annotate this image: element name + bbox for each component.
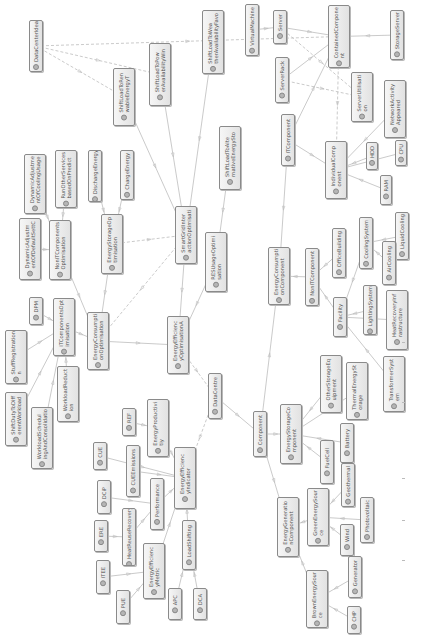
class-icon (92, 196, 98, 202)
class-icon (324, 470, 330, 476)
class-node-virtual-machine[interactable]: VirtualMachine (245, 4, 259, 56)
class-node-non-itcomponents-optimisation[interactable]: NonITComponents Optimisation (49, 220, 71, 280)
class-node-energy-efficiency-metric[interactable]: EnergyEfficienc yMetric (143, 543, 165, 599)
class-node-content: ITEE (100, 567, 106, 586)
class-node-shift-load-to-weather-favor[interactable]: ShiftLoadToWea therAvailabilityFavo (202, 10, 224, 74)
class-node-energy-generation-component[interactable]: EnergyGeneratio nComponent (277, 497, 299, 557)
class-node-itcomponent[interactable]: ITComponent (281, 114, 295, 166)
class-node-content: RESUsageOptimi sation (210, 236, 222, 288)
class-node-workload-reduction[interactable]: WorkloadReduct ion (57, 366, 79, 422)
class-node-energy-consumption-optimisation[interactable]: EnergyConsumpti onOptimisation (87, 312, 109, 370)
class-label: ITComponentsOpt imisation (58, 300, 70, 347)
class-icon (101, 501, 107, 507)
class-node-heat-recovery-infrastructure[interactable]: HeatRecoveryInf rastructure (386, 290, 408, 350)
class-node-dynamic-adjustment-of-cooling[interactable]: DynamicAdjustme ntOfCoolingUsage (24, 154, 46, 214)
class-node-pue[interactable]: PUE (116, 590, 130, 624)
class-node-charge-energy[interactable]: ChargeEnergy (120, 150, 134, 200)
class-node-resusage-optimisation[interactable]: RESUsageOptimi sation (205, 232, 227, 292)
class-label: DataCenterIdea (33, 21, 39, 62)
class-node-generator[interactable]: Generator (348, 556, 362, 598)
class-node-wind[interactable]: Wind (340, 524, 354, 556)
class-node-dynamic-adjustment-default-settings[interactable]: DynamicAdjustm entOfDefaultSettC (19, 218, 41, 280)
class-node-apc[interactable]: APC (168, 588, 182, 620)
class-node-contained-component[interactable]: ContainedCompone nt (328, 5, 350, 68)
class-node-content: Performance (154, 484, 160, 525)
class-node-network-activity[interactable]: NetworkActivity Appeared (384, 80, 406, 138)
class-node-smart-grid-interaction-optimisation[interactable]: SmartGridInter actionOptimisati (175, 206, 197, 264)
class-node-server-rack[interactable]: ServerRack (275, 57, 289, 103)
class-node-thermal-energy-storage[interactable]: ThermalEnergySt orage (346, 362, 368, 420)
class-node-workload-scheduling-consolidation[interactable]: WorkloadSchedul ingAndConsolidatio (31, 407, 53, 469)
class-node-server-utilisation[interactable]: ServerUtilisati on (351, 72, 373, 122)
class-label: PUE (120, 598, 126, 608)
class-node-data-centre[interactable]: DataCentre (208, 373, 222, 419)
class-icon (344, 451, 350, 457)
class-node-hdd[interactable]: HDD (366, 142, 378, 170)
class-node-transformer-system[interactable]: TransformerSyst em (383, 356, 405, 412)
class-node-individual-component[interactable]: IndividualComp onent (325, 141, 347, 199)
class-node-facility[interactable]: Facility (333, 297, 347, 337)
class-node-shift-load-future-avail-renewable[interactable]: ShiftLoadToRen wableEnergyT (113, 68, 135, 126)
class-icon (210, 65, 216, 71)
class-node-lighting-system[interactable]: LightingSystem (363, 285, 377, 335)
class-node-ref[interactable]: REF (122, 408, 136, 436)
class-node-shift-duty-to-different-workload[interactable]: ShiftDutyToDiff erentWorkload (5, 392, 27, 446)
class-node-cooling-system[interactable]: CoolingSystem (359, 217, 373, 269)
class-node-liquid-cooling[interactable]: LiquidCooling (395, 212, 409, 260)
class-node-cpu[interactable]: CPU (395, 140, 407, 166)
class-node-dpm[interactable]: DPM (29, 297, 43, 325)
class-node-shift-load-to-power-available[interactable]: ShiftLoadToPow erAvailabilityWin (149, 43, 171, 106)
class-node-energy-storage-optimisation[interactable]: EnergyStorageOp timisation (101, 214, 123, 274)
class-node-ere[interactable]: ERE (94, 520, 108, 552)
class-label: DischargeEnergy (92, 150, 98, 194)
class-node-dci-p[interactable]: DCiP (97, 480, 111, 514)
class-node-cue[interactable]: CUE (93, 442, 107, 470)
class-node-content: DynamicAdjustm entOfDefaultSettC (24, 221, 36, 277)
class-node-discharge-energy[interactable]: DischargeEnergy (88, 150, 102, 202)
class-node-itcomponents-optimisation[interactable]: ITComponentsOpt imisation (53, 298, 75, 356)
class-label: ChargeEnergy (124, 153, 130, 190)
class-node-chp[interactable]: CHP (347, 606, 361, 634)
class-node-non-itcomponent[interactable]: NonITComponent (305, 248, 319, 306)
class-node-cueemissions[interactable]: CUEEmissions (126, 445, 140, 497)
class-node-battery[interactable]: Battery (340, 423, 354, 463)
class-node-office-building[interactable]: OfficeBuilding (332, 228, 346, 278)
class-node-other-storage-equipment[interactable]: OtherStorageEq uipment (320, 355, 342, 413)
class-node-air-cooling[interactable]: AirCooling (382, 241, 396, 285)
class-node-geothermal[interactable]: Geothermal (341, 463, 355, 507)
class-node-energy-efficiency-optimisation[interactable]: EnergyEfficienc yOptimisationA (167, 316, 189, 374)
class-node-heat-reuse-recovery[interactable]: HeatReuseRecovery (122, 508, 136, 566)
class-node-run-other-services[interactable]: RunOtherServices basedOnPredict (55, 150, 77, 208)
class-node-photovoltaic[interactable]: Photovoltaic (360, 497, 374, 543)
class-node-energy-storage-component[interactable]: EnergyStorageCo mponent (280, 404, 302, 464)
class-node-shift-load-to-alternative-energy[interactable]: ShiftLoadToAlte rnativeEnergySto (219, 126, 241, 190)
class-node-storage-server[interactable]: StorageServer (390, 10, 404, 60)
class-node-load-shifting[interactable]: LoadShifting (182, 520, 196, 570)
class-node-content: RunOtherServices basedOnPredict (60, 152, 72, 207)
class-icon (109, 265, 115, 271)
class-node-green-energy-source[interactable]: GreenEnergySour ce (307, 488, 329, 546)
class-node-energy-productivity[interactable]: EnergyProductivi tiy (147, 399, 169, 457)
class-node-performance[interactable]: Performance (150, 478, 164, 530)
class-icon (39, 461, 45, 467)
class-node-dca[interactable]: DCA (193, 588, 207, 620)
class-icon (367, 328, 373, 334)
class-node-itee[interactable]: ITEE (96, 560, 110, 594)
class-node-energy-efficiency-indicator[interactable]: EnergyEfficienc yIndicator (174, 447, 196, 509)
class-node-data-center-idea[interactable]: DataCenterIdea (29, 20, 43, 72)
margin-mark (402, 342, 405, 343)
class-label: AirCooling (386, 246, 392, 273)
class-label: EnergyEfficienc yIndicator (179, 454, 191, 494)
class-node-energy-consumption-component[interactable]: EnergyConsumpti onComponent (268, 247, 290, 305)
class-icon (345, 498, 351, 504)
class-node-content: ShiftLoadToAlte rnativeEnergySto (224, 132, 236, 185)
class-icon (182, 496, 188, 502)
class-node-server[interactable]: Server (273, 10, 287, 44)
class-node-component[interactable]: Component (253, 411, 267, 457)
class-node-stuff-registration[interactable]: StuffRegistration n (5, 330, 27, 384)
class-node-content: ShiftLoadToRen wableEnergyT (118, 73, 130, 121)
class-node-ram[interactable]: RAM (380, 175, 392, 205)
class-node-brown-energy-source[interactable]: BrownEnergySour ce (306, 570, 328, 628)
class-node-fuel-cell[interactable]: FuelCell (320, 440, 334, 484)
class-node-content: CoolingSystem (363, 220, 369, 267)
